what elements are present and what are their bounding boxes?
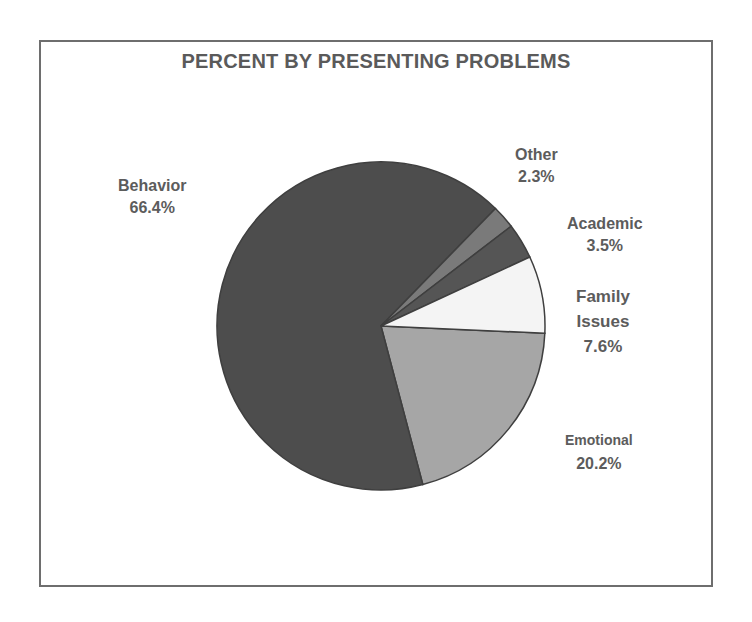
label-academic: Academic 3.5%: [567, 213, 643, 257]
label-other: Other 2.3%: [515, 144, 558, 188]
label-emotional: Emotional 20.2%: [565, 428, 633, 476]
label-family-issues: Family Issues 7.6%: [576, 284, 630, 359]
label-behavior: Behavior 66.4%: [118, 175, 186, 219]
pie-chart: [0, 0, 752, 622]
